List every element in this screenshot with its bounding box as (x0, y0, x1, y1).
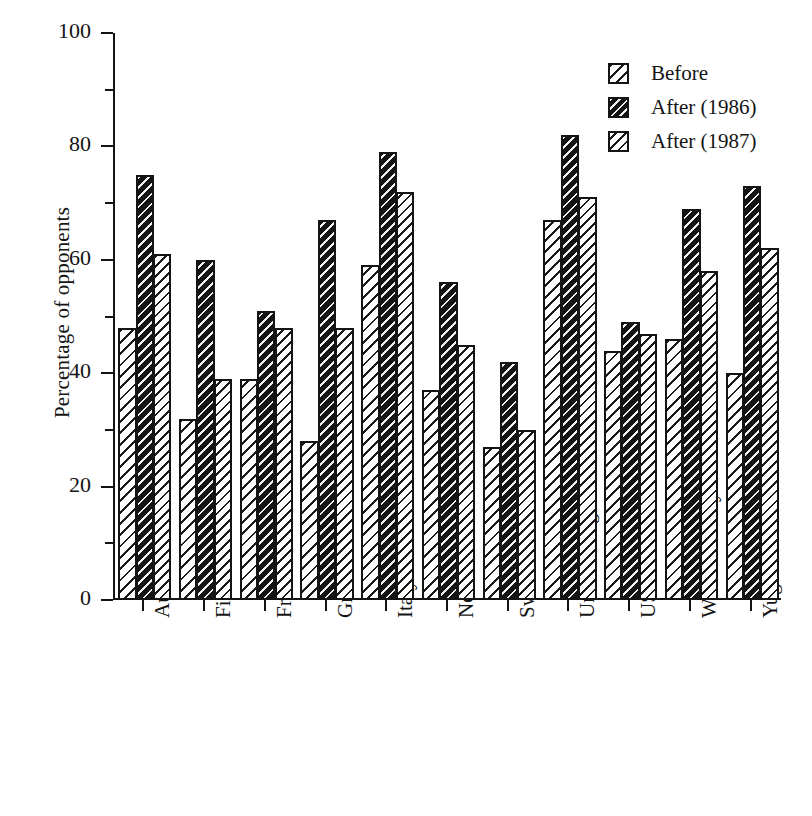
bar[interactable] (214, 379, 232, 600)
y-tick-label-40: 40 (69, 359, 91, 383)
bar[interactable] (361, 265, 379, 600)
bar[interactable] (760, 248, 778, 600)
legend-label: After (1987) (651, 129, 757, 154)
x-tick-2 (264, 600, 266, 611)
bar[interactable] (300, 441, 318, 600)
bar[interactable] (639, 334, 657, 600)
bar[interactable] (604, 351, 622, 600)
y-tick-minor-90 (105, 89, 113, 91)
y-tick-label-60: 60 (69, 246, 91, 270)
y-tick-60: 60 (101, 259, 113, 261)
bar[interactable] (682, 209, 700, 600)
y-tick-20: 20 (101, 486, 113, 488)
legend-swatch-icon-before (608, 63, 629, 84)
bar-group-austria (118, 33, 170, 600)
bar[interactable] (700, 271, 718, 600)
bar[interactable] (578, 197, 596, 600)
bar[interactable] (275, 328, 293, 600)
bar[interactable] (500, 362, 518, 600)
bar[interactable] (422, 390, 440, 600)
legend-label: After (1986) (651, 95, 757, 120)
bar[interactable] (257, 311, 275, 600)
bar-chart-figure: Percentage of opponents 020406080100 Aus… (0, 0, 812, 816)
legend-swatch-icon-after87 (608, 131, 629, 152)
bar[interactable] (118, 328, 136, 600)
y-tick-minor-70 (105, 202, 113, 204)
bar[interactable] (136, 175, 154, 600)
bar[interactable] (743, 186, 761, 600)
x-tick-10 (750, 600, 752, 611)
y-tick-minor-50 (105, 316, 113, 318)
bar-group-france (240, 33, 292, 600)
x-tick-7 (567, 600, 569, 611)
x-tick-9 (689, 600, 691, 611)
x-tick-8 (628, 600, 630, 611)
x-tick-1 (203, 600, 205, 611)
y-tick-minor-10 (105, 542, 113, 544)
bar[interactable] (621, 322, 639, 600)
legend-item-before[interactable]: Before (608, 56, 808, 90)
x-tick-4 (385, 600, 387, 611)
chart-legend: BeforeAfter (1986)After (1987) (608, 56, 808, 158)
bar[interactable] (561, 135, 579, 600)
bar[interactable] (335, 328, 353, 600)
bar[interactable] (726, 373, 744, 600)
bar-group-finland (179, 33, 231, 600)
bar[interactable] (379, 152, 397, 600)
bar[interactable] (153, 254, 171, 600)
x-tick-3 (325, 600, 327, 611)
y-axis-title: Percentage of opponents (50, 143, 75, 483)
bar[interactable] (457, 345, 475, 600)
bar[interactable] (517, 430, 535, 600)
y-tick-40: 40 (101, 372, 113, 374)
bar[interactable] (483, 447, 501, 600)
y-tick-label-20: 20 (69, 473, 91, 497)
legend-label: Before (651, 61, 708, 86)
bar[interactable] (240, 379, 258, 600)
x-tick-0 (142, 600, 144, 611)
y-tick-label-80: 80 (69, 132, 91, 156)
bar[interactable] (179, 419, 197, 600)
bar[interactable] (665, 339, 683, 600)
bar[interactable] (439, 282, 457, 600)
y-tick-80: 80 (101, 145, 113, 147)
legend-swatch-icon-after86 (608, 97, 629, 118)
legend-item-after86[interactable]: After (1986) (608, 90, 808, 124)
bar[interactable] (196, 260, 214, 600)
bar[interactable] (543, 220, 561, 600)
y-tick-0: 0 (101, 599, 113, 601)
legend-item-after87[interactable]: After (1987) (608, 124, 808, 158)
x-tick-6 (507, 600, 509, 611)
y-tick-minor-30 (105, 429, 113, 431)
x-tick-5 (446, 600, 448, 611)
bar[interactable] (396, 192, 414, 600)
bar[interactable] (318, 220, 336, 600)
bar-group-italy (361, 33, 413, 600)
y-tick-label-0: 0 (80, 586, 91, 610)
bar-group-sweden (483, 33, 535, 600)
bar-group-united-kingdom (543, 33, 595, 600)
y-tick-100: 100 (101, 32, 113, 34)
bar-group-netherlands (422, 33, 474, 600)
y-tick-label-100: 100 (58, 19, 91, 43)
bar-group-greece (300, 33, 352, 600)
